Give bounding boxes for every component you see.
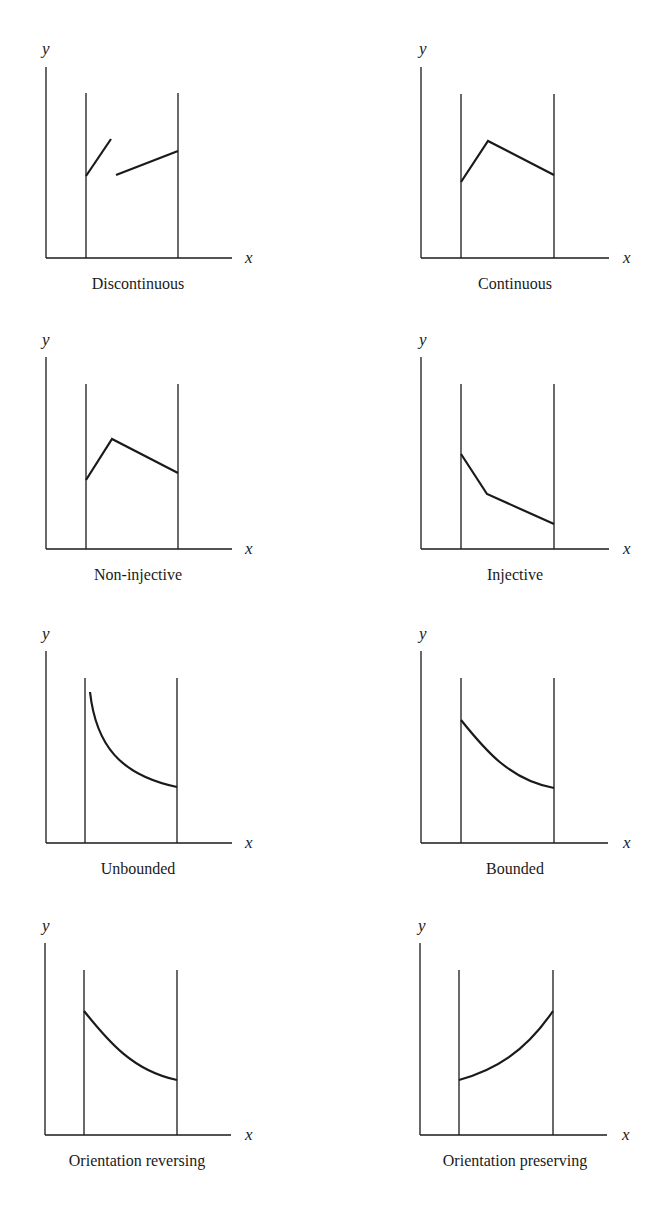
panel-continuous: y x Continuous bbox=[375, 0, 655, 290]
y-axis-label: y bbox=[418, 917, 426, 934]
panel-discontinuous: y x Discontinuous bbox=[0, 0, 280, 290]
x-axis-label: x bbox=[245, 540, 253, 557]
y-axis-label: y bbox=[419, 40, 427, 57]
x-axis-label: x bbox=[245, 1126, 253, 1143]
y-axis-label: y bbox=[419, 331, 427, 348]
panel-caption: Orientation preserving bbox=[443, 1153, 587, 1169]
function-segment-2 bbox=[116, 151, 178, 175]
function-curve bbox=[461, 141, 554, 182]
bounded-graph bbox=[375, 585, 655, 875]
orientation-preserving-graph bbox=[375, 877, 655, 1167]
panel-caption: Discontinuous bbox=[92, 276, 184, 292]
function-curve bbox=[461, 454, 554, 524]
panel-caption: Injective bbox=[487, 567, 543, 583]
panel-bounded: y x Bounded bbox=[375, 585, 655, 875]
y-axis-label: y bbox=[42, 625, 50, 642]
panel-orientation-preserving: y x Orientation preserving bbox=[375, 877, 655, 1167]
panel-caption: Orientation reversing bbox=[69, 1153, 205, 1169]
function-curve bbox=[90, 692, 177, 787]
y-axis-label: y bbox=[42, 40, 50, 57]
function-curve bbox=[461, 720, 554, 788]
x-axis-label: x bbox=[623, 249, 631, 266]
x-axis-label: x bbox=[245, 249, 253, 266]
continuous-graph bbox=[375, 0, 655, 290]
x-axis-label: x bbox=[622, 1126, 630, 1143]
panel-orientation-reversing: y x Orientation reversing bbox=[0, 877, 280, 1167]
function-curve bbox=[84, 1011, 177, 1080]
panel-caption: Non-injective bbox=[94, 567, 182, 583]
y-axis-label: y bbox=[42, 331, 50, 348]
function-segment-1 bbox=[86, 139, 111, 176]
x-axis-label: x bbox=[245, 834, 253, 851]
panel-caption: Unbounded bbox=[101, 861, 176, 877]
function-curve bbox=[459, 1011, 553, 1080]
y-axis-label: y bbox=[419, 625, 427, 642]
injective-graph bbox=[375, 291, 655, 581]
panel-non-injective: y x Non-injective bbox=[0, 291, 280, 581]
panel-caption: Bounded bbox=[486, 861, 544, 877]
panel-injective: y x Injective bbox=[375, 291, 655, 581]
y-axis-label: y bbox=[42, 917, 50, 934]
function-curve bbox=[86, 439, 178, 480]
x-axis-label: x bbox=[623, 540, 631, 557]
panel-unbounded: y x Unbounded bbox=[0, 585, 280, 875]
x-axis-label: x bbox=[623, 834, 631, 851]
panel-caption: Continuous bbox=[478, 276, 552, 292]
